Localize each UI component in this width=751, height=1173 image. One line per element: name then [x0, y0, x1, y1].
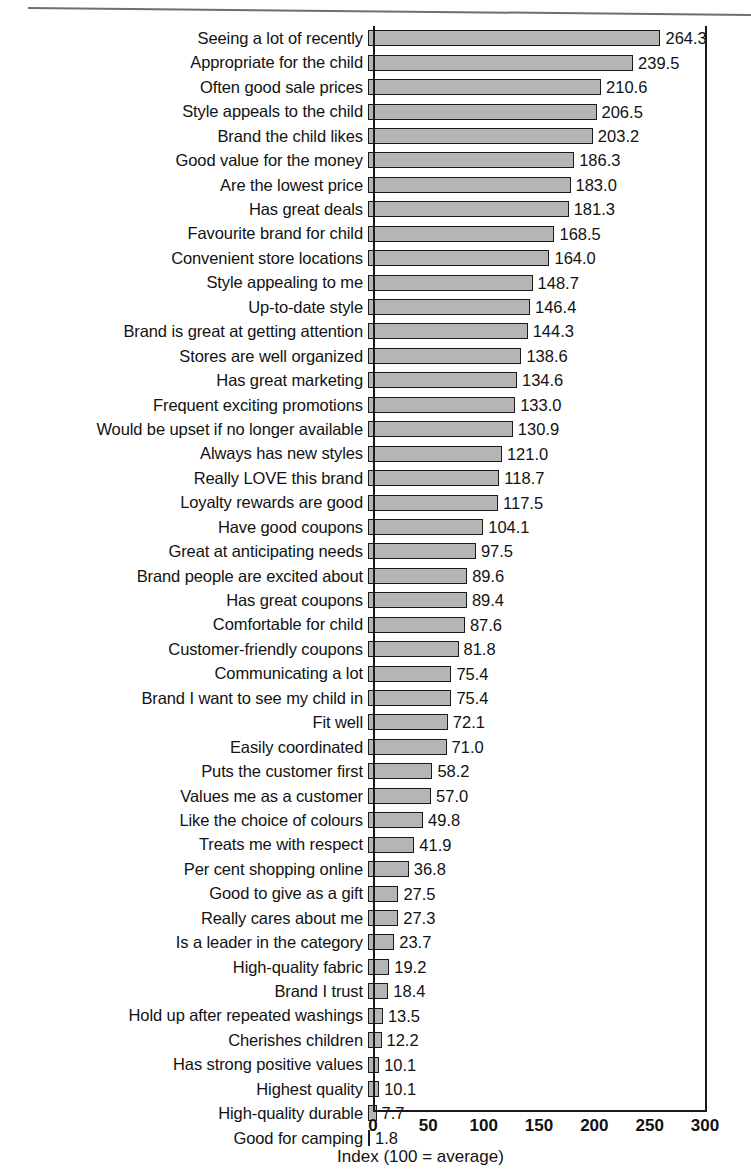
horizontal-bar-chart: Seeing a lot of recently264.3Appropriate… — [0, 26, 751, 1116]
category-label: Stores are well organized — [0, 348, 368, 365]
bar-value-label: 71.0 — [447, 739, 484, 756]
bar-track: 203.2 — [368, 124, 751, 148]
category-label: Style appealing to me — [0, 274, 368, 291]
bar — [368, 30, 660, 46]
category-label: Brand people are excited about — [0, 568, 368, 585]
plot-right-border — [705, 26, 707, 1112]
bar — [368, 519, 483, 535]
bar-value-label: 168.5 — [554, 225, 600, 242]
bar-value-label: 130.9 — [513, 421, 559, 438]
bar-track: 133.0 — [368, 393, 751, 417]
bar-track: 12.2 — [368, 1028, 751, 1052]
bar-value-label: 72.1 — [448, 714, 485, 731]
bar-track: 41.9 — [368, 832, 751, 856]
bar-row: Brand the child likes203.2 — [0, 124, 751, 148]
bar — [368, 446, 502, 462]
bar — [368, 959, 389, 975]
bar-value-label: 18.4 — [388, 983, 425, 1000]
category-label: Brand the child likes — [0, 128, 368, 145]
category-label: Has great coupons — [0, 592, 368, 609]
bar-row: Like the choice of colours49.8 — [0, 808, 751, 832]
bar-track: 210.6 — [368, 75, 751, 99]
bar — [368, 934, 394, 950]
category-label: Convenient store locations — [0, 250, 368, 267]
bar-row: Values me as a customer57.0 — [0, 784, 751, 808]
bar-row: Appropriate for the child239.5 — [0, 50, 751, 74]
bar-row: Would be upset if no longer available130… — [0, 417, 751, 441]
bar-value-label: 118.7 — [499, 470, 544, 487]
bar-value-label: 186.3 — [574, 152, 620, 169]
bar-row: Brand I trust18.4 — [0, 979, 751, 1003]
bar-track: 75.4 — [368, 686, 751, 710]
bar-value-label: 144.3 — [528, 323, 574, 340]
bar-track: 27.3 — [368, 906, 751, 930]
bar-value-label: 148.7 — [533, 274, 579, 291]
chart-page: Seeing a lot of recently264.3Appropriate… — [0, 0, 751, 1173]
x-axis-line — [373, 1110, 707, 1112]
bar — [368, 152, 574, 168]
bar-track: 72.1 — [368, 710, 751, 734]
bar-track: 49.8 — [368, 808, 751, 832]
bar-value-label: 117.5 — [498, 494, 543, 511]
bar-track: 130.9 — [368, 417, 751, 441]
bar-track: 117.5 — [368, 490, 751, 514]
bar-row: Hold up after repeated washings13.5 — [0, 1004, 751, 1028]
y-axis-line — [373, 26, 375, 1112]
bar-value-label: 87.6 — [465, 616, 502, 633]
bar-row: Has great marketing134.6 — [0, 368, 751, 392]
category-label: Really LOVE this brand — [0, 470, 368, 487]
bar — [368, 568, 467, 584]
bar-track: 121.0 — [368, 441, 751, 465]
bar-row: Have good coupons104.1 — [0, 515, 751, 539]
category-label: Appropriate for the child — [0, 54, 368, 71]
x-axis-tick-labels: 050100150200250300 — [0, 1117, 751, 1139]
bar-row: Really LOVE this brand118.7 — [0, 466, 751, 490]
bar-value-label: 27.3 — [398, 910, 435, 927]
category-label: Easily coordinated — [0, 739, 368, 756]
bar — [368, 421, 513, 437]
bar-value-label: 19.2 — [389, 959, 426, 976]
bar — [368, 128, 593, 144]
bar-rows: Seeing a lot of recently264.3Appropriate… — [0, 26, 751, 1150]
category-label: Are the lowest price — [0, 177, 368, 194]
page-top-rule — [28, 7, 751, 16]
bar — [368, 641, 459, 657]
bar — [368, 666, 451, 682]
bar-track: 18.4 — [368, 979, 751, 1003]
bar-track: 57.0 — [368, 784, 751, 808]
category-label: Cherishes children — [0, 1032, 368, 1049]
bar-track: 75.4 — [368, 661, 751, 685]
bar-value-label: 183.0 — [571, 177, 617, 194]
bar — [368, 177, 571, 193]
bar-row: Often good sale prices210.6 — [0, 75, 751, 99]
category-label: Has strong positive values — [0, 1056, 368, 1073]
bar-row: Really cares about me27.3 — [0, 906, 751, 930]
bar-row: Style appealing to me148.7 — [0, 270, 751, 294]
bar — [368, 299, 530, 315]
bar-value-label: 206.5 — [597, 103, 643, 120]
category-label: Favourite brand for child — [0, 225, 368, 242]
bar — [368, 983, 388, 999]
category-label: High-quality fabric — [0, 959, 368, 976]
bar-track: 146.4 — [368, 295, 751, 319]
bar-row: Loyalty rewards are good117.5 — [0, 490, 751, 514]
x-tick-label: 100 — [469, 1117, 497, 1134]
category-label: Style appeals to the child — [0, 103, 368, 120]
bar-value-label: 134.6 — [517, 372, 563, 389]
x-tick-label: 200 — [580, 1117, 608, 1134]
bar-row: Convenient store locations164.0 — [0, 246, 751, 270]
bar — [368, 714, 448, 730]
bar-value-label: 41.9 — [414, 836, 451, 853]
bar-track: 168.5 — [368, 222, 751, 246]
bar-value-label: 27.5 — [398, 885, 435, 902]
bar-row: Great at anticipating needs97.5 — [0, 539, 751, 563]
bar-row: Good to give as a gift27.5 — [0, 881, 751, 905]
bar — [368, 788, 431, 804]
bar-value-label: 49.8 — [423, 812, 460, 829]
bar-track: 58.2 — [368, 759, 751, 783]
bar-row: Brand I want to see my child in75.4 — [0, 686, 751, 710]
bar — [368, 495, 498, 511]
bar-track: 164.0 — [368, 246, 751, 270]
bar — [368, 323, 528, 339]
bar-track: 27.5 — [368, 881, 751, 905]
